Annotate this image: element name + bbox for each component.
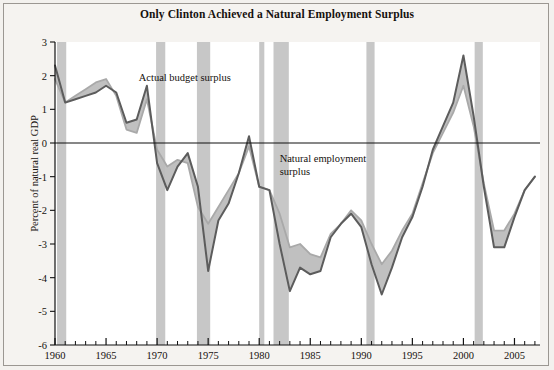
x-tick-label: 2000 (453, 350, 474, 361)
natural-employment-surplus-label-line2: surplus (280, 166, 310, 177)
y-tick-label: 1 (42, 104, 47, 115)
y-tick-label: 2 (42, 71, 47, 82)
y-tick-label: -3 (38, 239, 47, 250)
x-tick-label: 1965 (96, 350, 117, 361)
y-axis-label: Percent of natural real GDP (29, 84, 40, 264)
y-tick-label: -5 (38, 306, 47, 317)
x-tick-label: 1990 (351, 350, 372, 361)
y-tick-label: 0 (42, 138, 47, 149)
x-tick-label: 1975 (198, 350, 219, 361)
recession-1980-band (259, 42, 264, 345)
x-tick-label: 1985 (300, 350, 321, 361)
x-tick-label: 1995 (402, 350, 423, 361)
x-tick-label: 2005 (504, 350, 525, 361)
plot-area: 3210-1-2-3-4-5-6196019651970197519801985… (0, 0, 554, 370)
y-tick-label: -4 (38, 273, 47, 284)
chart-svg: 3210-1-2-3-4-5-6196019651970197519801985… (0, 0, 554, 370)
y-tick-label: -2 (38, 205, 47, 216)
y-tick-label: -1 (38, 172, 47, 183)
recession-1981-band (274, 42, 289, 345)
x-tick-label: 1960 (45, 350, 66, 361)
actual-budget-surplus-label: Actual budget surplus (139, 72, 231, 83)
recession-2001-band (475, 42, 483, 345)
x-tick-label: 1970 (147, 350, 168, 361)
recession-1990-band (366, 42, 374, 345)
recession-1970-band (156, 42, 165, 345)
figure-container: Only Clinton Achieved a Natural Employme… (0, 0, 554, 370)
x-tick-label: 1980 (249, 350, 270, 361)
natural-employment-surplus-label-line1: Natural employment (280, 153, 367, 164)
y-tick-label: 3 (42, 37, 47, 48)
